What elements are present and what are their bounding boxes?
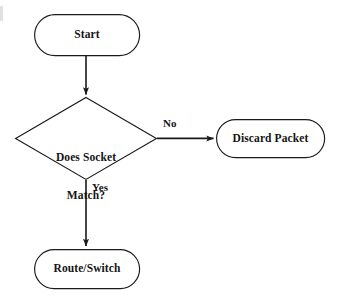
node-start-label: Start: [34, 28, 140, 41]
edge-label-no: No: [157, 117, 193, 129]
edge-label-yes: Yes: [86, 181, 126, 193]
node-decision-label: Does Socket Match?: [26, 125, 146, 228]
node-discard-label: Discard Packet: [216, 132, 325, 145]
node-route-label: Route/Switch: [34, 262, 140, 275]
flowchart-canvas: Start Does Socket Match? Discard Packet …: [0, 0, 338, 304]
node-decision-label-line1: Does Socket: [26, 151, 146, 164]
